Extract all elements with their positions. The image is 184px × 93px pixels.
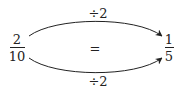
right-fraction-bar	[165, 47, 174, 48]
left-fraction-bar	[10, 47, 25, 48]
bottom-arrow-curve	[29, 58, 162, 73]
top-arrow-curve	[29, 21, 162, 36]
equals-sign: =	[90, 42, 101, 55]
equivalent-fractions-diagram: 2 10 1 5 = ÷2 ÷2	[0, 0, 184, 93]
bottom-arrow-label: ÷2	[88, 75, 107, 88]
top-arrow-label: ÷2	[88, 7, 107, 20]
right-numerator: 1	[165, 33, 173, 46]
left-numerator: 2	[13, 33, 21, 46]
left-denominator: 10	[9, 50, 26, 63]
right-denominator: 5	[165, 50, 173, 63]
